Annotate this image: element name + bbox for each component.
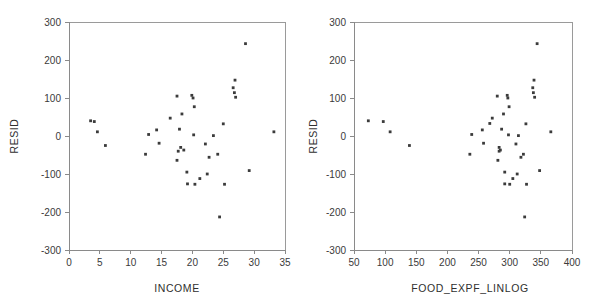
income-plot-frame xyxy=(69,22,285,250)
income-y-axis-title: RESID xyxy=(8,118,20,153)
income-x-ticks: 05101520253035 xyxy=(66,250,291,268)
data-point-11 xyxy=(496,159,499,162)
data-point-3 xyxy=(408,144,411,147)
data-point-21 xyxy=(507,133,510,136)
data-point-9 xyxy=(176,95,179,98)
data-point-18 xyxy=(503,182,506,185)
data-point-5 xyxy=(147,133,150,136)
data-point-33 xyxy=(233,91,236,94)
income-x-ticklabel-15: 15 xyxy=(156,257,168,268)
foodexpf-x-ticklabel-50: 50 xyxy=(348,257,360,268)
data-point-28 xyxy=(520,156,523,159)
data-point-7 xyxy=(158,142,161,145)
data-point-37 xyxy=(248,169,251,172)
data-point-4 xyxy=(468,153,471,156)
foodexpf-y-axis-title: RESID xyxy=(307,118,319,153)
data-point-31 xyxy=(223,183,226,186)
data-point-39 xyxy=(549,130,552,133)
data-point-34 xyxy=(234,79,237,82)
income-y-ticklabel-0: 0 xyxy=(55,131,61,142)
data-point-17 xyxy=(503,171,506,174)
income-x-ticklabel-25: 25 xyxy=(218,257,230,268)
data-point-3 xyxy=(104,144,107,147)
data-point-18 xyxy=(190,94,193,97)
data-point-29 xyxy=(522,153,525,156)
data-point-1 xyxy=(382,120,385,123)
data-point-32 xyxy=(525,183,528,186)
income-x-ticklabel-0: 0 xyxy=(66,257,72,268)
data-point-26 xyxy=(208,156,211,159)
income-x-ticklabel-10: 10 xyxy=(125,257,137,268)
data-point-35 xyxy=(234,96,237,99)
residual-scatter-figure: -300-200-1000100200300 05101520253035 IN… xyxy=(0,0,597,308)
data-point-2 xyxy=(96,130,99,133)
data-point-22 xyxy=(194,183,197,186)
foodexpf-frame-left-bottom xyxy=(354,22,572,250)
income-y-ticklabel--300: -300 xyxy=(41,245,61,256)
foodexpf-y-ticklabel-0: 0 xyxy=(340,131,346,142)
data-point-31 xyxy=(525,122,528,125)
foodexpf-y-ticklabel-100: 100 xyxy=(329,93,346,104)
data-point-30 xyxy=(222,122,225,125)
income-x-axis-title: INCOME xyxy=(154,282,200,294)
income-y-ticklabel-300: 300 xyxy=(44,17,61,28)
data-point-19 xyxy=(192,97,195,100)
data-point-13 xyxy=(179,146,182,149)
foodexpf-x-ticklabel-150: 150 xyxy=(408,257,425,268)
foodexpf-x-ticklabel-300: 300 xyxy=(501,257,518,268)
data-point-8 xyxy=(488,122,491,125)
data-point-34 xyxy=(532,91,535,94)
data-point-2 xyxy=(389,130,392,133)
panel-food-expf-linlog: -300-200-1000100200300 50100150200250300… xyxy=(298,0,596,308)
income-y-ticklabel--100: -100 xyxy=(41,169,61,180)
data-point-22 xyxy=(508,105,511,108)
data-point-20 xyxy=(506,97,509,100)
data-point-15 xyxy=(182,149,185,152)
income-x-ticklabel-35: 35 xyxy=(279,257,291,268)
foodexpf-scatter-plot: -300-200-1000100200300 50100150200250300… xyxy=(298,0,597,308)
data-point-6 xyxy=(155,129,158,132)
income-y-ticklabel--200: -200 xyxy=(41,207,61,218)
data-point-21 xyxy=(193,105,196,108)
foodexpf-y-ticklabel-300: 300 xyxy=(329,17,346,28)
foodexpf-x-ticks: 50100150200250300350400 xyxy=(348,250,580,268)
income-x-ticklabel-5: 5 xyxy=(97,257,103,268)
data-point-7 xyxy=(482,142,485,145)
data-point-8 xyxy=(169,117,172,120)
income-y-ticks: -300-200-1000100200300 xyxy=(41,17,69,256)
data-point-0 xyxy=(89,119,92,122)
foodexpf-frame-top-right xyxy=(354,22,572,250)
data-point-16 xyxy=(502,113,505,116)
data-point-14 xyxy=(181,113,184,116)
data-point-25 xyxy=(515,143,518,146)
data-point-15 xyxy=(500,128,503,131)
data-point-6 xyxy=(481,129,484,132)
data-point-36 xyxy=(244,42,247,45)
income-scatter-plot: -300-200-1000100200300 05101520253035 IN… xyxy=(0,0,298,308)
data-point-13 xyxy=(498,146,501,149)
panel-income: -300-200-1000100200300 05101520253035 IN… xyxy=(0,0,298,308)
data-point-16 xyxy=(185,171,188,174)
data-point-30 xyxy=(523,216,526,219)
data-point-10 xyxy=(496,95,499,98)
data-point-12 xyxy=(178,128,181,131)
data-point-9 xyxy=(491,117,494,120)
foodexpf-x-ticklabel-100: 100 xyxy=(377,257,394,268)
foodexpf-x-ticklabel-400: 400 xyxy=(564,257,581,268)
data-point-24 xyxy=(204,143,207,146)
data-point-27 xyxy=(212,134,215,137)
foodexpf-y-ticks: -300-200-1000100200300 xyxy=(326,17,354,256)
data-point-28 xyxy=(216,153,219,156)
data-point-19 xyxy=(506,94,509,97)
data-point-23 xyxy=(508,183,511,186)
income-y-ticklabel-100: 100 xyxy=(44,93,61,104)
data-point-29 xyxy=(218,216,221,219)
data-point-38 xyxy=(272,130,275,133)
data-point-5 xyxy=(470,133,473,136)
foodexpf-y-ticklabel-200: 200 xyxy=(329,55,346,66)
income-frame-left-bottom xyxy=(69,22,285,250)
data-point-20 xyxy=(192,133,195,136)
data-point-26 xyxy=(516,173,519,176)
income-y-ticklabel-200: 200 xyxy=(44,55,61,66)
data-point-24 xyxy=(511,177,514,180)
